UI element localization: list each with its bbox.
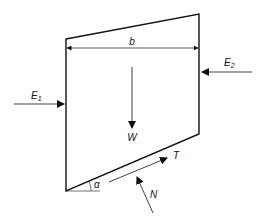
force-w-label: W — [127, 132, 138, 143]
angle-alpha-label: α — [94, 179, 100, 190]
force-n-label: N — [150, 189, 158, 200]
force-e1-label: E1 — [31, 90, 42, 102]
force-e2-label: E2 — [224, 57, 235, 69]
force-t-label: T — [173, 150, 180, 161]
angle-arc — [89, 181, 91, 191]
slice-force-diagram: b E1 E2 W T N α — [0, 0, 264, 223]
width-label: b — [129, 36, 135, 47]
